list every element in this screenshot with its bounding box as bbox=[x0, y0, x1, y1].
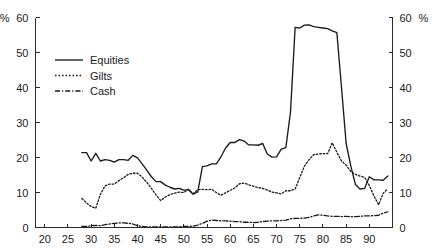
x-tick-label: 70 bbox=[270, 233, 282, 245]
y-tick-label-left: 0 bbox=[22, 222, 28, 234]
axes bbox=[36, 18, 393, 228]
axis-ticks bbox=[36, 18, 393, 228]
legend-label-equities: Equities bbox=[90, 54, 130, 66]
x-tick-label: 20 bbox=[39, 233, 51, 245]
y-tick-label-right: 40 bbox=[400, 82, 412, 94]
y-tick-label-left: 10 bbox=[16, 187, 28, 199]
x-tick-label: 80 bbox=[317, 233, 329, 245]
x-tick-label: 90 bbox=[363, 233, 375, 245]
x-tick-label: 85 bbox=[340, 233, 352, 245]
y-tick-label-right: 20 bbox=[400, 152, 412, 164]
y-tick-label-left: 20 bbox=[16, 152, 28, 164]
line-chart: 00101020203030404050506060%%202530354045… bbox=[0, 0, 432, 251]
y-tick-label-left: 50 bbox=[16, 47, 28, 59]
y-tick-label-left: 30 bbox=[16, 117, 28, 129]
axis-tick-labels: 00101020203030404050506060%%202530354045… bbox=[0, 12, 429, 245]
series-line-cash bbox=[82, 212, 388, 227]
series-line-gilts bbox=[82, 143, 388, 208]
x-tick-label: 30 bbox=[85, 233, 97, 245]
x-tick-label: 50 bbox=[178, 233, 190, 245]
series-line-equities bbox=[82, 25, 388, 194]
right-axis-unit: % bbox=[419, 12, 429, 24]
x-tick-label: 65 bbox=[247, 233, 259, 245]
x-tick-label: 75 bbox=[294, 233, 306, 245]
chart-legend: EquitiesGiltsCash bbox=[55, 54, 130, 97]
y-tick-label-right: 30 bbox=[400, 117, 412, 129]
y-tick-label-right: 60 bbox=[400, 12, 412, 24]
y-tick-label-right: 10 bbox=[400, 187, 412, 199]
x-tick-label: 45 bbox=[155, 233, 167, 245]
x-tick-label: 35 bbox=[108, 233, 120, 245]
y-tick-label-left: 40 bbox=[16, 82, 28, 94]
legend-label-cash: Cash bbox=[90, 85, 116, 97]
legend-label-gilts: Gilts bbox=[90, 70, 113, 82]
x-tick-label: 25 bbox=[62, 233, 74, 245]
y-tick-label-right: 0 bbox=[400, 222, 406, 234]
chart-container: 00101020203030404050506060%%202530354045… bbox=[0, 0, 432, 251]
x-tick-label: 40 bbox=[131, 233, 143, 245]
x-tick-label: 60 bbox=[224, 233, 236, 245]
x-tick-label: 55 bbox=[201, 233, 213, 245]
y-tick-label-right: 50 bbox=[400, 47, 412, 59]
y-tick-label-left: 60 bbox=[16, 12, 28, 24]
left-axis-unit: % bbox=[0, 12, 10, 24]
